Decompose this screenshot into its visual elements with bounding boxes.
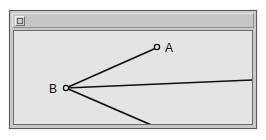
point-label-a: A [165,41,173,55]
diagram-segment-bc [66,88,156,124]
diagram-segment-ba [66,49,154,88]
point-marker-a[interactable] [154,44,159,49]
window-menu-icon[interactable] [15,16,25,26]
point-label-b: B [49,82,57,96]
applet-window: ABC [9,10,257,129]
diagram-segment-b-ray [66,80,252,88]
screenshot-root: ABC [0,0,266,140]
drawing-canvas[interactable]: ABC [13,30,253,125]
geometry-diagram[interactable]: ABC [14,31,252,124]
point-marker-b[interactable] [63,85,68,90]
window-title-bar[interactable] [12,13,254,28]
point-label-c: C [167,122,176,124]
